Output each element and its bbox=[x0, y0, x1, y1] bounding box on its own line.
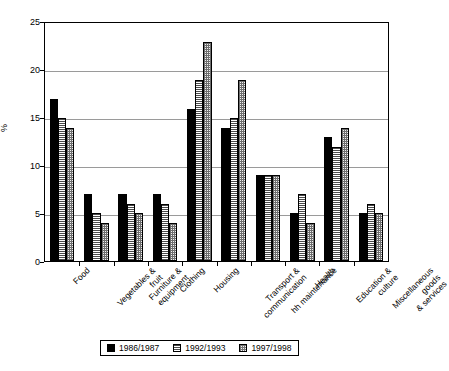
y-tick-label: 15 bbox=[12, 114, 40, 123]
y-tick-mark bbox=[40, 166, 44, 167]
bar-group bbox=[217, 23, 251, 261]
bar bbox=[118, 194, 126, 261]
x-axis-labels: FoodVegetables & fruitFurniture & equipm… bbox=[0, 266, 405, 336]
bar bbox=[135, 213, 143, 261]
bar bbox=[367, 204, 375, 261]
bar bbox=[127, 204, 135, 261]
bar bbox=[161, 204, 169, 261]
bar bbox=[153, 194, 161, 261]
x-tick-label: Housing bbox=[213, 266, 242, 295]
bar-group bbox=[148, 23, 182, 261]
bar bbox=[187, 109, 195, 261]
legend-swatch bbox=[239, 344, 247, 352]
x-tick-label: Transport & communication bbox=[255, 266, 309, 320]
bar bbox=[375, 213, 383, 261]
y-tick-mark bbox=[40, 22, 44, 23]
bar bbox=[306, 223, 314, 261]
bar bbox=[203, 42, 211, 261]
x-tick-label: Health bbox=[314, 266, 338, 290]
legend-label: 1992/1993 bbox=[185, 343, 225, 353]
bar bbox=[169, 223, 177, 261]
bar bbox=[58, 118, 66, 261]
bar bbox=[264, 175, 272, 261]
legend-label: 1986/1987 bbox=[119, 343, 159, 353]
bar bbox=[324, 137, 332, 261]
bar-group bbox=[114, 23, 148, 261]
x-tick-label: Food bbox=[72, 266, 92, 286]
y-tick-label: 5 bbox=[12, 210, 40, 219]
legend-swatch bbox=[107, 344, 115, 352]
bar bbox=[298, 194, 306, 261]
bar bbox=[359, 213, 367, 261]
bar-group bbox=[285, 23, 319, 261]
bar bbox=[341, 128, 349, 261]
y-tick-mark bbox=[40, 262, 44, 263]
bar bbox=[221, 128, 229, 261]
legend-entry: 1997/1998 bbox=[239, 343, 291, 353]
legend-swatch bbox=[173, 344, 181, 352]
bar-group bbox=[79, 23, 113, 261]
bar bbox=[92, 213, 100, 261]
y-axis: 0510152025 bbox=[8, 22, 40, 262]
bar-group bbox=[251, 23, 285, 261]
y-tick-mark bbox=[40, 70, 44, 71]
y-axis-title: % bbox=[0, 124, 9, 132]
legend: 1986/19871992/19931997/1998 bbox=[100, 340, 299, 356]
legend-entry: 1992/1993 bbox=[173, 343, 225, 353]
bar bbox=[290, 213, 298, 261]
bar bbox=[332, 147, 340, 261]
bar bbox=[256, 175, 264, 261]
x-tick-label: Miscellaneous goods & services bbox=[391, 266, 449, 324]
y-tick-mark bbox=[40, 214, 44, 215]
bar-group bbox=[319, 23, 353, 261]
bar bbox=[238, 80, 246, 261]
legend-entry: 1986/1987 bbox=[107, 343, 159, 353]
y-tick-mark bbox=[40, 118, 44, 119]
bar bbox=[84, 194, 92, 261]
y-tick-label: 20 bbox=[12, 66, 40, 75]
bar-group bbox=[45, 23, 79, 261]
legend-label: 1997/1998 bbox=[251, 343, 291, 353]
bar bbox=[230, 118, 238, 261]
bar bbox=[272, 175, 280, 261]
y-tick-label: 25 bbox=[12, 18, 40, 27]
bar bbox=[50, 99, 58, 261]
bar-group bbox=[182, 23, 216, 261]
bar bbox=[66, 128, 74, 261]
bar-group bbox=[354, 23, 388, 261]
x-tick-label: Clothing bbox=[178, 266, 207, 295]
y-tick-label: 10 bbox=[12, 162, 40, 171]
bar bbox=[101, 223, 109, 261]
bars-layer bbox=[45, 23, 388, 261]
bar bbox=[195, 80, 203, 261]
